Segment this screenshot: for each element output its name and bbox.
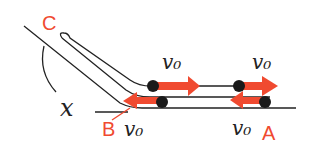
- velocity-label-lower-right: v₀: [232, 116, 251, 140]
- ball-upper-right: [233, 80, 245, 92]
- velocity-label-lower-left: v₀: [124, 117, 143, 141]
- point-label-b: B: [102, 118, 115, 141]
- ball-lower-left: [156, 96, 168, 108]
- ball-upper-left: [147, 80, 159, 92]
- ball-lower-right: [259, 96, 271, 108]
- angle-arc: [43, 46, 57, 92]
- velocity-arrow-upper-left: [155, 76, 200, 96]
- angle-label: x: [60, 94, 74, 122]
- velocity-label-upper-right: v₀: [252, 50, 271, 74]
- point-label-c: C: [42, 12, 56, 35]
- tube-upper-wall: [60, 33, 240, 86]
- velocity-label-upper-left: v₀: [162, 50, 181, 74]
- point-label-a: A: [262, 122, 275, 145]
